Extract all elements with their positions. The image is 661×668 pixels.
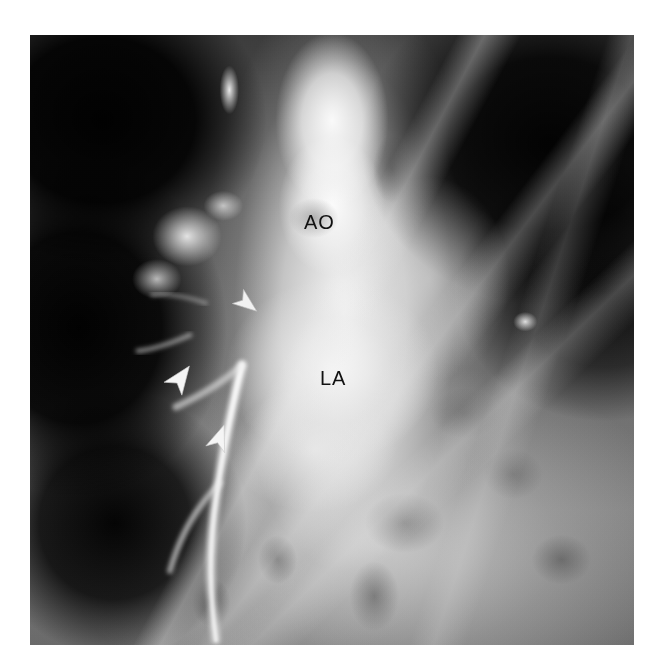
radiograph-film: AO LA <box>30 35 634 645</box>
radiograph-page: AO LA <box>0 0 661 668</box>
film-grain-texture <box>30 35 634 645</box>
label-left-atrium: LA <box>320 368 346 388</box>
label-aorta: AO <box>304 212 335 232</box>
